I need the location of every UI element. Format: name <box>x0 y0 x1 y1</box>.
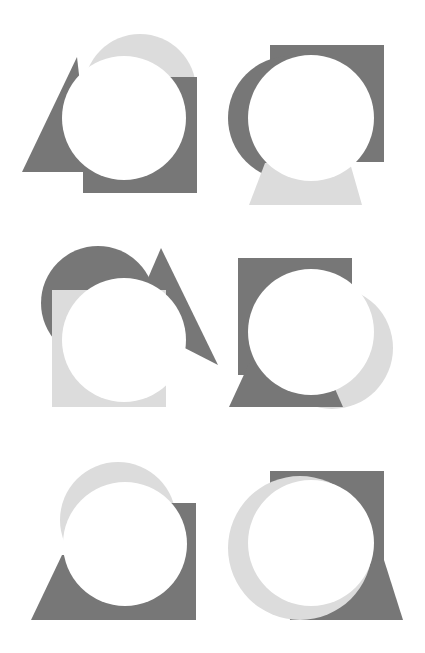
figure-5 <box>31 462 196 620</box>
figure-1 <box>22 34 197 193</box>
white-hole-circle-shape <box>63 482 187 606</box>
white-hole-circle-shape <box>62 56 186 180</box>
white-hole-circle-shape <box>248 480 374 606</box>
figure-2 <box>228 45 384 205</box>
white-hole-circle-shape <box>62 278 186 402</box>
shapes-canvas <box>0 0 425 653</box>
figure-6 <box>228 471 403 620</box>
white-hole-circle-shape <box>248 269 374 395</box>
figure-3 <box>41 246 218 407</box>
white-hole-circle-shape <box>248 55 374 181</box>
figure-4 <box>229 258 393 409</box>
